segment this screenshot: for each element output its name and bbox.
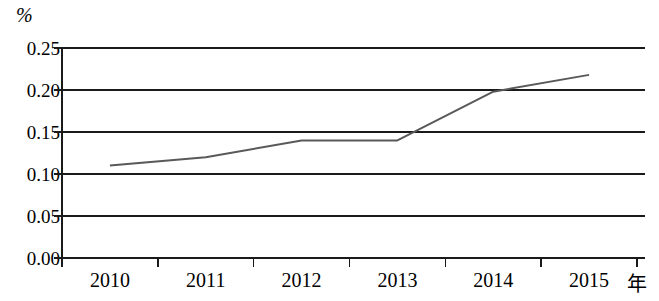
x-axis-tick-label: 2013 xyxy=(377,268,417,292)
x-axis-tick-label: 2011 xyxy=(186,268,225,292)
y-axis-ticks xyxy=(54,48,62,258)
x-axis-tick-label: 2015 xyxy=(569,268,609,292)
x-axis-ticks xyxy=(62,258,637,267)
x-axis-tick-label: 2010 xyxy=(90,268,130,292)
x-axis-tick-label: 2012 xyxy=(282,268,322,292)
chart-plot-area xyxy=(0,0,659,301)
line-chart-figure: % 年 0.000.050.100.150.200.25 20102011201… xyxy=(0,0,659,301)
x-axis-tick-label: 2014 xyxy=(473,268,513,292)
data-series-line xyxy=(110,75,589,166)
